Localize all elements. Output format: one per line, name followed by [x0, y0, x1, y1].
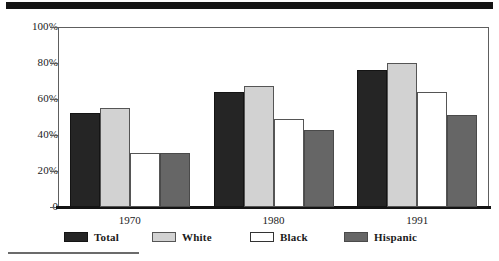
x-axis-tick-label: 1980 [234, 214, 314, 226]
legend-label: White [182, 232, 212, 243]
y-axis-tick-mark [50, 27, 58, 28]
legend-swatch-black [250, 232, 274, 242]
legend-item-white: White [152, 230, 212, 244]
legend-item-hispanic: Hispanic [344, 230, 417, 244]
bar-black-1980 [274, 119, 304, 207]
bar-white-1970 [100, 108, 130, 207]
bar-total-1991 [357, 70, 387, 207]
x-axis-tick-label: 1970 [90, 214, 170, 226]
footnote-divider-rule [8, 252, 139, 254]
y-axis-tick-mark [50, 63, 58, 64]
bar-chart: 020%40%60%80%100% 197019801991 [0, 18, 499, 218]
top-divider-rule [6, 2, 493, 9]
legend-swatch-total [64, 232, 88, 242]
legend-label: Total [94, 232, 119, 243]
legend-label: Black [280, 232, 308, 243]
bar-white-1991 [387, 63, 417, 207]
bar-white-1980 [244, 86, 274, 207]
bar-total-1980 [214, 92, 244, 207]
legend-label: Hispanic [374, 232, 417, 243]
y-axis-tick-mark [50, 135, 58, 136]
bar-black-1991 [417, 92, 447, 207]
bar-black-1970 [130, 153, 160, 207]
bar-total-1970 [70, 113, 100, 207]
bar-hispanic-1991 [447, 115, 477, 207]
bar-hispanic-1980 [304, 130, 334, 207]
legend-item-total: Total [64, 230, 119, 244]
x-axis-tick-label: 1991 [377, 214, 457, 226]
legend-swatch-hispanic [344, 232, 368, 242]
legend-item-black: Black [250, 230, 308, 244]
bar-hispanic-1970 [160, 153, 190, 207]
y-axis-tick-mark [50, 99, 58, 100]
legend-swatch-white [152, 232, 176, 242]
chart-legend: TotalWhiteBlackHispanic [0, 230, 499, 244]
y-axis-tick-mark [50, 171, 58, 172]
